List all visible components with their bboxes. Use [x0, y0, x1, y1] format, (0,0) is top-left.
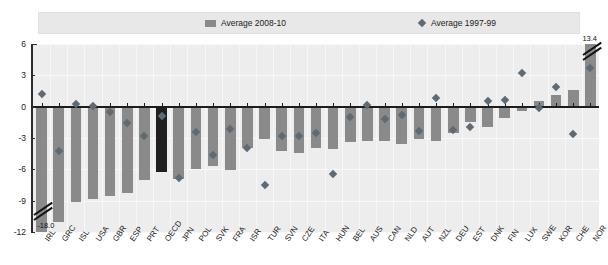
bar: [139, 107, 150, 180]
y-axis-tick: [31, 44, 37, 45]
column-separator: [530, 44, 531, 232]
bar: [362, 107, 373, 141]
bar: [259, 107, 270, 139]
column-separator: [67, 44, 68, 232]
column-separator: [462, 44, 463, 232]
bar: [345, 107, 356, 143]
y-axis-tick: [31, 75, 35, 76]
data-point-marker: [329, 169, 337, 177]
bar: [276, 107, 287, 151]
y-axis-tick-label: 6: [6, 39, 26, 49]
column-separator: [410, 44, 411, 232]
column-separator: [222, 44, 223, 232]
column-separator: [187, 44, 188, 232]
y-axis-tick: [31, 107, 35, 108]
legend-diamond-swatch-icon: [418, 19, 426, 27]
y-axis-tick-label: -9: [6, 196, 26, 206]
y-axis-tick: [31, 138, 35, 139]
column-separator: [359, 44, 360, 232]
bar: [53, 107, 64, 222]
bar: [465, 107, 476, 123]
legend-item-bar: Average 2008-10: [205, 13, 286, 33]
bar: [431, 107, 442, 141]
bar-chart: -18.013.4 630-3-6-9-12 IRLGRCISLUSAGBRES…: [0, 36, 608, 265]
column-separator: [513, 44, 514, 232]
y-axis-tick: [31, 169, 35, 170]
bar: [311, 107, 322, 149]
data-point-marker: [552, 83, 560, 91]
column-separator: [376, 44, 377, 232]
chart-legend: Average 2008-10 Average 1997-99: [38, 12, 580, 34]
bar: [379, 107, 390, 141]
column-separator: [565, 44, 566, 232]
axis-break-icon: [583, 50, 603, 62]
column-separator: [84, 44, 85, 232]
column-separator: [479, 44, 480, 232]
bar: [225, 107, 236, 171]
data-point-marker: [260, 181, 268, 189]
y-axis-tick: [31, 201, 35, 202]
bar: [328, 107, 339, 150]
column-separator: [153, 44, 154, 232]
column-separator: [342, 44, 343, 232]
zero-axis-line: [33, 106, 599, 108]
bar: [173, 107, 184, 179]
legend-bar-swatch-icon: [205, 20, 216, 27]
column-separator: [273, 44, 274, 232]
column-separator: [582, 44, 583, 232]
legend-bar-label: Average 2008-10: [221, 18, 286, 28]
column-separator: [427, 44, 428, 232]
x-axis-labels: IRLGRCISLUSAGBRESPPRTOECDJPNPOLSVKFRAISR…: [31, 236, 597, 265]
plot-area: -18.013.4: [31, 44, 599, 232]
column-separator: [290, 44, 291, 232]
data-point-marker: [432, 94, 440, 102]
legend-item-marker: Average 1997-99: [419, 13, 496, 33]
bar: [294, 107, 305, 153]
axis-break-value: 13.4: [582, 34, 597, 43]
y-axis-tick-label: -3: [6, 133, 26, 143]
y-axis-tick-label: 0: [6, 102, 26, 112]
column-separator: [119, 44, 120, 232]
column-separator: [393, 44, 394, 232]
data-point-marker: [483, 97, 491, 105]
y-axis-tick-label: 3: [6, 70, 26, 80]
bar: [191, 107, 202, 170]
column-separator: [307, 44, 308, 232]
column-separator: [136, 44, 137, 232]
column-separator: [445, 44, 446, 232]
column-separator: [496, 44, 497, 232]
column-separator: [325, 44, 326, 232]
data-point-marker: [37, 90, 45, 98]
column-separator: [239, 44, 240, 232]
column-separator: [170, 44, 171, 232]
column-separator: [548, 44, 549, 232]
bar: [71, 107, 82, 202]
column-separator: [102, 44, 103, 232]
data-point-marker: [569, 130, 577, 138]
data-point-marker: [500, 96, 508, 104]
data-point-marker: [466, 122, 474, 130]
column-separator: [205, 44, 206, 232]
bar: [88, 107, 99, 199]
bar: [242, 107, 253, 149]
y-axis-tick-label: -12: [6, 227, 26, 237]
bar: [105, 107, 116, 197]
column-separator: [256, 44, 257, 232]
y-axis-tick: [31, 232, 35, 233]
bar: [482, 107, 493, 127]
legend-marker-label: Average 1997-99: [431, 18, 496, 28]
bar: [499, 107, 510, 118]
y-axis-tick-label: -6: [6, 164, 26, 174]
